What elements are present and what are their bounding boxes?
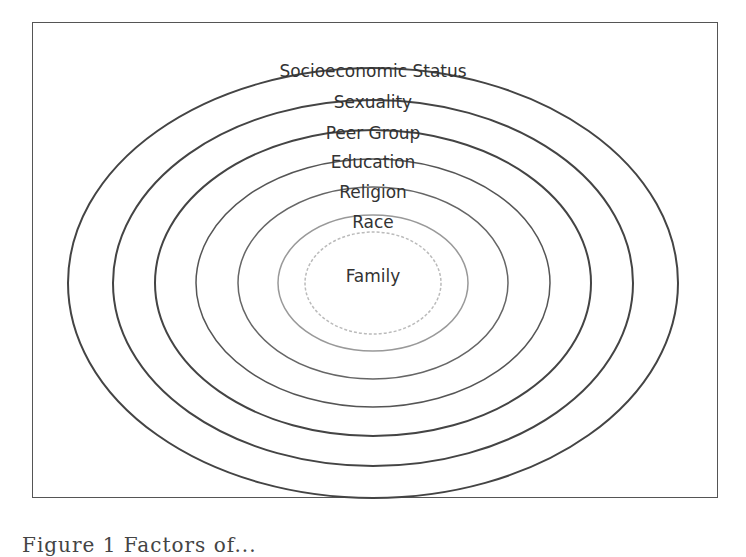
figure-caption: Figure 1 Factors of... <box>22 533 257 557</box>
ring-label-sexuality: Sexuality <box>334 92 412 112</box>
ring-label-socioeconomic-status: Socioeconomic Status <box>279 61 466 81</box>
ring-label-religion: Religion <box>339 182 407 202</box>
ring-label-peer-group: Peer Group <box>326 123 421 143</box>
ring-label-family: Family <box>346 266 401 286</box>
label-group: Socioeconomic StatusSexualityPeer GroupE… <box>279 61 466 286</box>
ring-label-education: Education <box>331 152 416 172</box>
ring-label-race: Race <box>352 212 394 232</box>
caption-text: Figure 1 Factors of... <box>22 533 257 557</box>
